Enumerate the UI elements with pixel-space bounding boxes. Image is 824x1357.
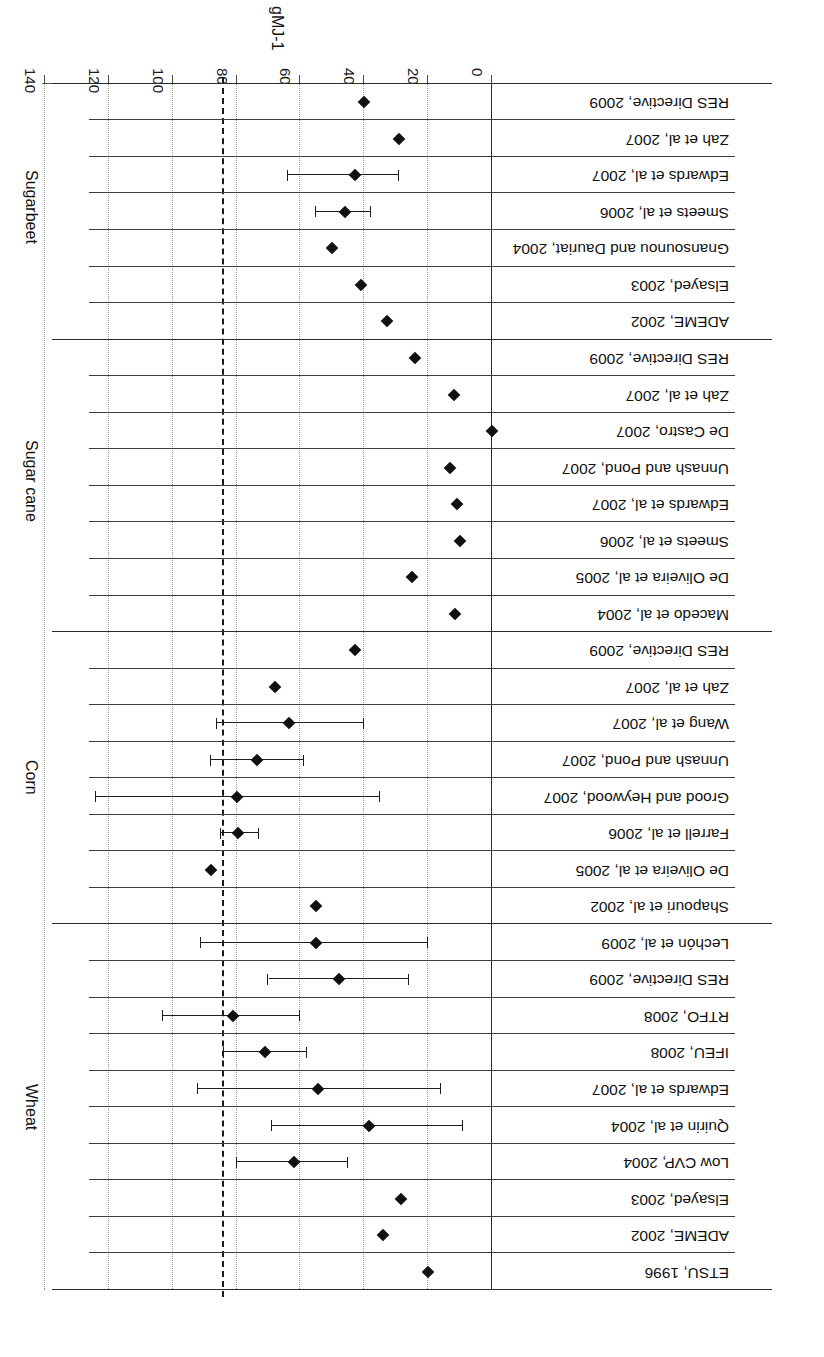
group-label-wheat: Wheat xyxy=(22,1084,40,1130)
group-separator xyxy=(52,924,772,925)
row-separator xyxy=(89,119,735,120)
row-separator xyxy=(89,997,735,998)
row-label: ADEME, 2002 xyxy=(631,1227,729,1245)
group-label-sugarbeet: Sugarbeet xyxy=(22,170,40,244)
row-separator xyxy=(89,1070,735,1071)
error-bar-cap xyxy=(197,1083,198,1094)
row-label: RTFO, 2008 xyxy=(644,1008,729,1026)
data-point-marker xyxy=(205,863,218,876)
data-point-marker xyxy=(444,461,457,474)
error-bar-cap xyxy=(347,1157,348,1168)
figure-page: 020406080100120140gMJ-1ETSU, 1996ADEME, … xyxy=(0,0,824,1357)
data-point-marker xyxy=(326,242,339,255)
row-separator xyxy=(89,229,735,230)
row-separator xyxy=(89,1179,735,1180)
row-label: RES Directive, 2009 xyxy=(589,350,729,368)
error-bar-cap xyxy=(440,1083,441,1094)
row-separator xyxy=(89,1216,735,1217)
row-label: IFEU, 2008 xyxy=(651,1044,729,1062)
row-label: RES Directive, 2009 xyxy=(589,971,729,989)
data-point-marker xyxy=(486,425,499,438)
group-separator xyxy=(52,1289,772,1290)
error-bar-cap xyxy=(303,755,304,766)
row-separator xyxy=(89,814,735,815)
error-bar-cap xyxy=(306,1047,307,1058)
row-label: Quirin et al, 2004 xyxy=(611,1118,729,1136)
error-bar-cap xyxy=(370,206,371,217)
row-label: Gnansounou and Dauriat, 2004 xyxy=(513,240,729,258)
reference-line xyxy=(222,78,224,1297)
error-bar-cap xyxy=(408,974,409,985)
data-point-marker xyxy=(283,717,296,730)
axis-tick-label-120: 120 xyxy=(86,68,103,93)
row-separator xyxy=(89,558,735,559)
row-label: Smeets et al, 2006 xyxy=(600,204,729,222)
row-label: Zah et al, 2007 xyxy=(626,679,729,697)
group-separator xyxy=(52,339,772,340)
row-separator xyxy=(89,156,735,157)
error-bar-cap xyxy=(210,755,211,766)
row-label: Unnash and Pond, 2007 xyxy=(562,460,729,478)
error-bar-cap xyxy=(223,1047,224,1058)
row-label: Edwards et al, 2007 xyxy=(592,496,729,514)
data-point-marker xyxy=(232,827,245,840)
data-point-marker xyxy=(355,279,368,292)
error-bar-cap xyxy=(200,937,201,948)
group-separator xyxy=(52,83,772,84)
row-label: De Castro, 2007 xyxy=(616,423,729,441)
data-point-marker xyxy=(269,681,282,694)
error-bar-cap xyxy=(216,718,217,729)
data-point-marker xyxy=(358,96,371,109)
error-bar xyxy=(288,174,400,175)
row-separator xyxy=(89,266,735,267)
row-label: Edwards et al, 2007 xyxy=(592,1081,729,1099)
axis-tick-label-0: 0 xyxy=(469,68,486,76)
row-separator xyxy=(89,1143,735,1144)
data-point-marker xyxy=(363,1119,376,1132)
row-separator xyxy=(89,887,735,888)
data-point-marker xyxy=(230,790,243,803)
data-point-marker xyxy=(380,315,393,328)
axis-title: gMJ-1 xyxy=(268,6,286,50)
row-label: ADEME, 2002 xyxy=(631,313,729,331)
row-label: Lechón et al, 2009 xyxy=(601,935,729,953)
data-point-marker xyxy=(377,1229,390,1242)
row-label: Smeets et al, 2006 xyxy=(600,533,729,551)
row-label: Zah et al, 2007 xyxy=(626,131,729,149)
error-bar-cap xyxy=(258,828,259,839)
data-point-marker xyxy=(348,644,361,657)
row-label: ETSU, 1996 xyxy=(645,1264,729,1282)
row-separator xyxy=(89,1106,735,1107)
error-bar-cap xyxy=(95,791,96,802)
error-bar-cap xyxy=(462,1120,463,1131)
row-label: Macedo et al, 2004 xyxy=(597,606,729,624)
forest-plot: 020406080100120140gMJ-1ETSU, 1996ADEME, … xyxy=(0,0,824,1357)
row-separator xyxy=(89,193,735,194)
data-point-marker xyxy=(339,205,352,218)
row-separator xyxy=(89,448,735,449)
row-label: Elsayed, 2003 xyxy=(631,277,729,295)
axis-tick-label-140: 140 xyxy=(22,68,39,93)
row-label: Grood and Heywood, 2007 xyxy=(544,789,729,807)
error-bar-cap xyxy=(427,937,428,948)
data-point-marker xyxy=(454,534,467,547)
row-separator xyxy=(89,960,735,961)
data-point-marker xyxy=(395,1192,408,1205)
rotated-figure-container: 020406080100120140gMJ-1ETSU, 1996ADEME, … xyxy=(0,0,824,1357)
error-bar-cap xyxy=(363,718,364,729)
row-separator xyxy=(89,777,735,778)
error-bar-cap xyxy=(379,791,380,802)
row-label: Edwards et al, 2007 xyxy=(592,167,729,185)
gridline-140 xyxy=(44,84,45,1290)
data-point-marker xyxy=(449,607,462,620)
row-separator xyxy=(89,595,735,596)
row-separator xyxy=(89,302,735,303)
row-separator xyxy=(89,485,735,486)
group-label-sugar-cane: Sugar cane xyxy=(22,440,40,522)
data-point-marker xyxy=(406,571,419,584)
data-point-marker xyxy=(310,936,323,949)
axis-tick-label-100: 100 xyxy=(150,68,167,93)
row-label: Zah et al, 2007 xyxy=(626,387,729,405)
row-separator xyxy=(89,375,735,376)
row-separator xyxy=(89,850,735,851)
